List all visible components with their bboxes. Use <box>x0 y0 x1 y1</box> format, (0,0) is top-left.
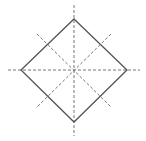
diagram-canvas <box>0 0 146 141</box>
symmetry-diagram <box>0 0 146 141</box>
symmetry-lines <box>8 5 140 136</box>
